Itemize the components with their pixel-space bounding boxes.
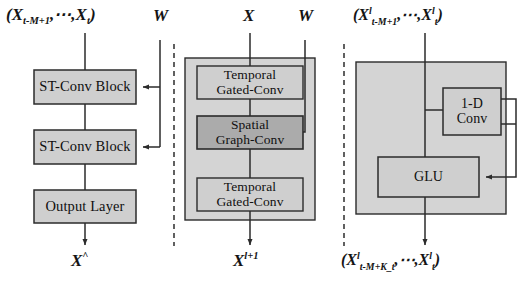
stgcn-architecture-figure bbox=[0, 0, 531, 281]
temporal-gated-conv-top[interactable] bbox=[197, 66, 303, 99]
right-output-label: (Xlt-M+K_t,⋯,Xlt) bbox=[341, 251, 440, 271]
middle-output-label: Xl+1 bbox=[233, 251, 259, 269]
middle-input-label: X bbox=[243, 7, 254, 24]
st-conv-block-1[interactable] bbox=[34, 70, 136, 104]
glu-block[interactable] bbox=[378, 157, 479, 197]
middle-weight-label: W bbox=[298, 7, 313, 24]
left-output-label: X^ bbox=[71, 251, 88, 269]
left-input-label: (Xt-M+1,⋯,Xt) bbox=[6, 6, 96, 27]
temporal-gated-conv-bottom[interactable] bbox=[197, 178, 303, 211]
spatial-graph-conv[interactable] bbox=[197, 116, 303, 149]
right-input-label: (Xlt-M+1,⋯,Xlt) bbox=[353, 6, 443, 26]
one-d-conv-block[interactable] bbox=[443, 88, 501, 135]
output-layer-block[interactable] bbox=[34, 190, 136, 223]
left-weight-label: W bbox=[153, 7, 168, 24]
st-conv-block-2[interactable] bbox=[34, 130, 136, 164]
